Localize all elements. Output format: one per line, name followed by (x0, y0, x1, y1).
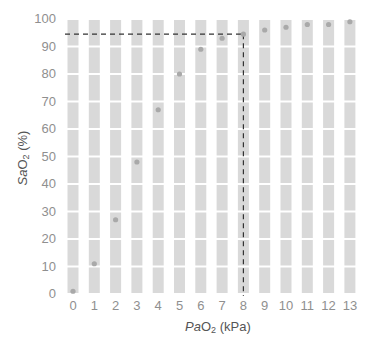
grid-bar-segment (68, 130, 79, 156)
grid-bar-segment (302, 48, 313, 74)
grid-bar-segment (344, 130, 355, 156)
grid-bar-segment (259, 103, 270, 129)
grid-bar-segment (344, 213, 355, 239)
grid-bar-segment (174, 158, 185, 184)
grid-bar-segment (68, 213, 79, 239)
data-point (177, 71, 182, 76)
grid-bar-segment (323, 158, 334, 184)
grid-bar-segment (89, 158, 100, 184)
grid-bar-segment (217, 20, 228, 46)
grid-bar-segment (195, 240, 206, 266)
grid-bar-segment (281, 20, 292, 46)
grid-bar-segment (195, 75, 206, 101)
grid-bar-segment (68, 158, 79, 184)
grid-bar-segment (217, 75, 228, 101)
grid-bar-segment (110, 20, 121, 46)
grid-bar-segment (217, 268, 228, 294)
grid-bar-segment (68, 75, 79, 101)
data-point (347, 19, 352, 24)
grid-bar-segment (174, 130, 185, 156)
x-axis-label: PaO2 (kPa) (185, 319, 251, 335)
grid-bar-segment (281, 75, 292, 101)
grid-bar-segment (89, 130, 100, 156)
data-point (326, 22, 331, 27)
grid-bar-segment (323, 268, 334, 294)
y-tick-label: 20 (26, 232, 56, 246)
grid-bar-segment (323, 240, 334, 266)
grid-bar-segment (89, 213, 100, 239)
grid-bar-segment (131, 48, 142, 74)
grid-bar-segment (281, 240, 292, 266)
grid-bar-segment (238, 75, 249, 101)
grid-bar-segment (110, 213, 121, 239)
grid-bar-segment (259, 268, 270, 294)
grid-bar-segment (281, 103, 292, 129)
grid-bar-segment (302, 268, 313, 294)
grid-bar-segment (259, 185, 270, 211)
y-tick-label: 80 (26, 67, 56, 81)
grid-bar-segment (153, 130, 164, 156)
grid-bar-segment (174, 75, 185, 101)
grid-bar-segment (302, 185, 313, 211)
grid-bar-segment (281, 213, 292, 239)
grid-bar-segment (302, 240, 313, 266)
grid-bar-segment (259, 213, 270, 239)
data-point (156, 107, 161, 112)
grid-bar-segment (323, 103, 334, 129)
grid-bar-segment (131, 240, 142, 266)
data-point (92, 261, 97, 266)
grid-bar-segment (217, 185, 228, 211)
grid-bar-segment (259, 48, 270, 74)
grid-bar-segment (323, 185, 334, 211)
grid-bar-segment (195, 213, 206, 239)
grid-bar-segment (174, 213, 185, 239)
grid-bar-segment (174, 48, 185, 74)
grid-bar-segment (153, 268, 164, 294)
grid-bar-segment (302, 103, 313, 129)
grid-bar-segment (302, 75, 313, 101)
grid-bar-segment (195, 20, 206, 46)
grid-bar-segment (238, 48, 249, 74)
data-point (134, 159, 139, 164)
grid-bar-segment (281, 48, 292, 74)
grid-bar-segment (131, 185, 142, 211)
grid-bar-segment (110, 75, 121, 101)
grid-bar-segment (68, 185, 79, 211)
grid-bar-segment (131, 103, 142, 129)
grid-bar-segment (344, 103, 355, 129)
grid-bar-segment (174, 240, 185, 266)
grid-bar-segment (344, 158, 355, 184)
grid-bar-segment (344, 268, 355, 294)
grid-bar-segment (259, 20, 270, 46)
grid-bar-segment (110, 185, 121, 211)
grid-bar-segment (195, 158, 206, 184)
grid-bar-segment (153, 213, 164, 239)
y-tick-label: 100 (26, 12, 56, 26)
grid-bar-segment (153, 103, 164, 129)
grid-bar-segment (153, 185, 164, 211)
grid-bar-segment (344, 48, 355, 74)
grid-bar-segment (302, 130, 313, 156)
grid-bar-segment (131, 213, 142, 239)
grid-bar-segment (281, 130, 292, 156)
grid-bar-segment (344, 240, 355, 266)
data-point (283, 25, 288, 30)
grid-bar-segment (323, 75, 334, 101)
x-tick-label: 13 (338, 299, 362, 313)
grid-bar-segment (195, 130, 206, 156)
grid-bar-segment (89, 185, 100, 211)
grid-bar-segment (68, 20, 79, 46)
grid-bar-segment (89, 268, 100, 294)
grid-bar-segment (281, 268, 292, 294)
grid-bar-segment (195, 103, 206, 129)
grid-bar-segment (153, 75, 164, 101)
grid-bar-segment (259, 240, 270, 266)
grid-bar-segment (153, 48, 164, 74)
grid-bar-segment (68, 103, 79, 129)
y-tick-label: 10 (26, 260, 56, 274)
grid-bar-segment (110, 268, 121, 294)
grid-bar-segment (110, 158, 121, 184)
grid-bar-segment (259, 130, 270, 156)
data-point (220, 36, 225, 41)
grid-bar-segment (323, 213, 334, 239)
